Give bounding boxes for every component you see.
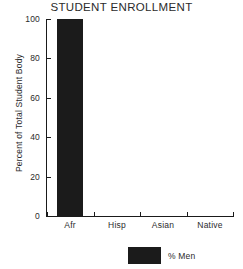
chart-legend: % Men [128, 247, 195, 264]
y-tick-label-0: 0 [0, 211, 40, 221]
y-tick-label-100: 100 [0, 14, 40, 24]
chart-title: STUDENT ENROLLMENT [0, 1, 243, 13]
legend-label-men: % Men [168, 251, 195, 261]
x-tick-label-native: Native [180, 220, 240, 230]
bar-afr [57, 19, 83, 216]
legend-swatch-men [128, 247, 161, 264]
plot-area [47, 19, 233, 216]
y-axis-label: Percent of Total Student Body [14, 28, 24, 198]
x-tick-end-4 [233, 212, 234, 217]
chart-figure: STUDENT ENROLLMENT 020406080100 AfrHispA… [0, 0, 243, 269]
